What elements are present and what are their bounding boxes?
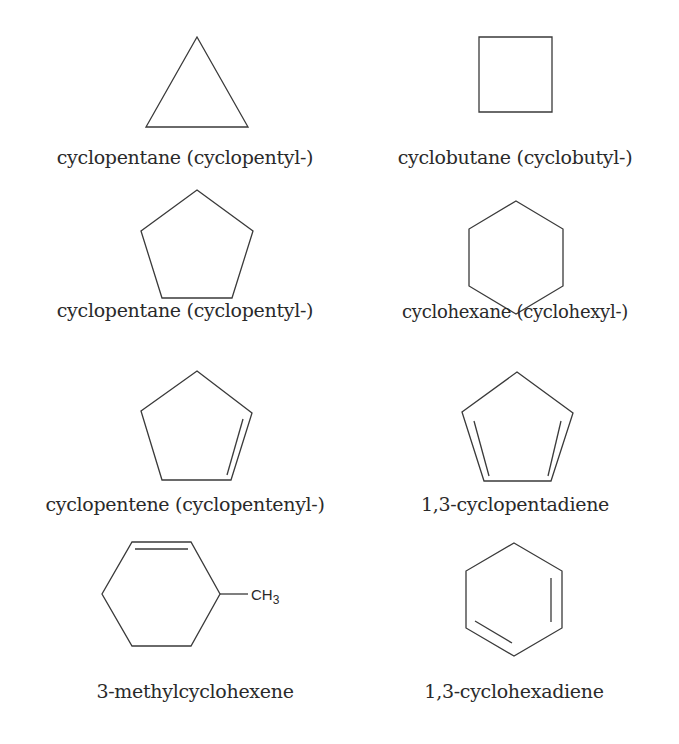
structures-canvas: CH3 bbox=[0, 0, 679, 744]
structure-label-cyclopropane-position: cyclopentane (cyclopentyl-) bbox=[57, 146, 313, 168]
cyclohexadiene-ring-icon bbox=[466, 543, 562, 656]
hexagon-ring-icon bbox=[469, 201, 563, 314]
structure-label-cyclohexane: cyclohexane (cyclohexyl-) bbox=[402, 301, 628, 322]
pentagon-ring-icon bbox=[141, 190, 253, 298]
structure-label-cyclopentene: cyclopentene (cyclopentenyl-) bbox=[45, 493, 324, 515]
structure-label-cyclopentadiene: 1,3-cyclopentadiene bbox=[421, 493, 609, 515]
triangle-ring-icon bbox=[146, 37, 248, 127]
structure-label-methylcyclohexene: 3-methylcyclohexene bbox=[96, 680, 293, 702]
methyl-group-label: CH3 bbox=[251, 586, 280, 607]
structure-label-cyclobutane: cyclobutane (cyclobutyl-) bbox=[398, 146, 633, 168]
square-ring-icon bbox=[479, 37, 552, 112]
cyclopentene-ring-icon bbox=[141, 371, 252, 480]
structure-label-cyclohexadiene: 1,3-cyclohexadiene bbox=[424, 680, 603, 702]
methylcyclohexene-ring-icon: CH3 bbox=[102, 542, 280, 646]
cyclopentadiene-ring-icon bbox=[462, 372, 573, 481]
structure-label-cyclopentane: cyclopentane (cyclopentyl-) bbox=[57, 299, 313, 321]
